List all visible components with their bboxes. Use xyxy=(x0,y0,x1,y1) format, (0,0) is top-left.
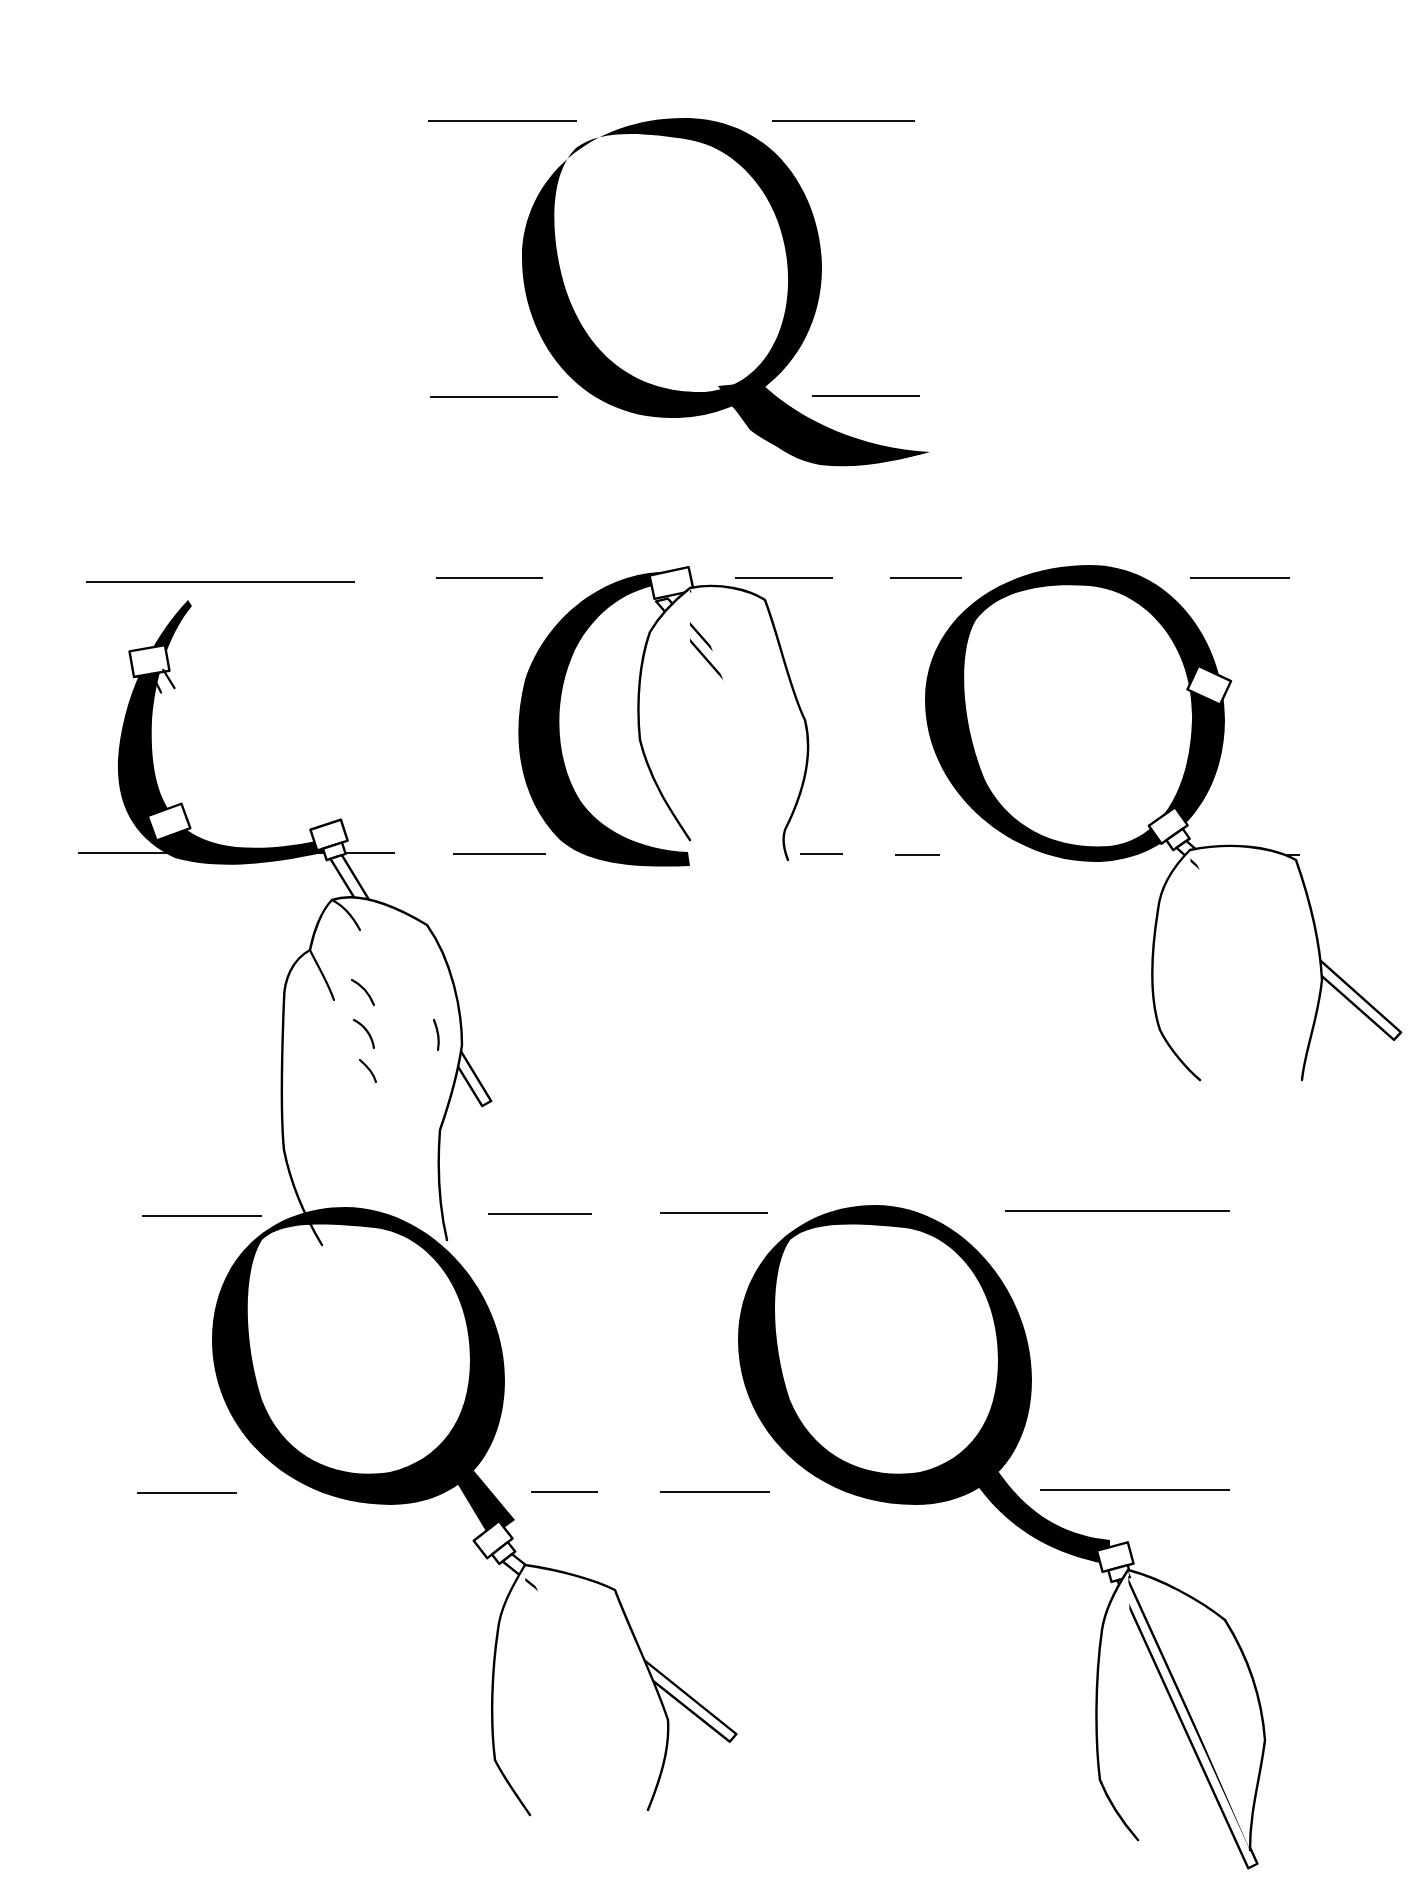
calligraphy-q-illustration xyxy=(0,0,1419,1896)
step-5-tail-complete xyxy=(738,1205,1265,1885)
writing-hand xyxy=(638,586,808,860)
writing-hand xyxy=(1152,846,1322,1080)
final-letter-q xyxy=(428,118,930,466)
stroke-q-bowl xyxy=(212,1207,505,1505)
step-3-right-bowl xyxy=(890,565,1402,1085)
step-2-left-bowl xyxy=(436,567,843,866)
writing-hand xyxy=(492,1565,668,1815)
step-4-tail-start xyxy=(137,1207,770,1815)
step-1-left-curve xyxy=(78,582,492,1245)
stroke-tail xyxy=(962,1455,1110,1565)
writing-hand xyxy=(282,897,462,1245)
stroke-tail-partial xyxy=(448,1460,515,1538)
q-bowl xyxy=(522,118,822,418)
